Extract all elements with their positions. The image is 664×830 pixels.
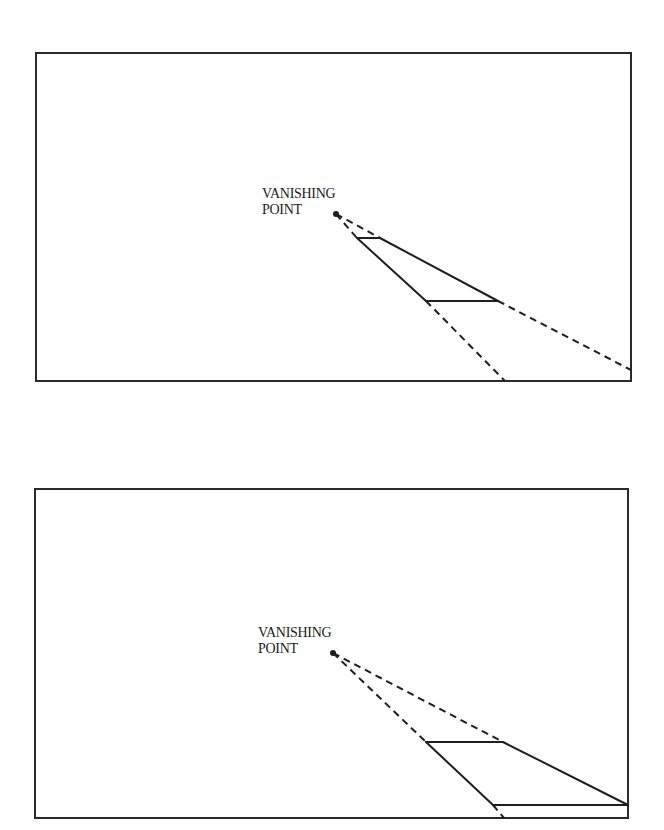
panel-1-right-edge (380, 238, 498, 301)
perspective-diagram: VANISHING POINT VANISHING POINT (0, 0, 664, 830)
panel-1-frame (36, 53, 631, 381)
panel-1-label-line1: VANISHING (262, 186, 335, 201)
panel-2: VANISHING POINT (35, 489, 628, 818)
panel-1-left-guide-near (336, 214, 357, 238)
panel-2-left-edge (426, 742, 493, 805)
panel-2-right-guide (333, 653, 503, 742)
panel-1-left-edge (357, 238, 426, 301)
panel-2-label-line1: VANISHING (258, 625, 331, 640)
panel-1-left-guide-far (426, 301, 505, 381)
panel-1-label-line2: POINT (262, 202, 302, 217)
panel-1-right-guide-near (336, 214, 380, 238)
panel-2-right-edge (503, 742, 628, 805)
panel-1-right-guide-far (498, 301, 631, 370)
panel-2-left-guide-extension (493, 805, 504, 818)
panel-2-left-guide (333, 653, 426, 742)
panel-2-label-line2: POINT (258, 641, 298, 656)
panel-1: VANISHING POINT (36, 53, 631, 381)
